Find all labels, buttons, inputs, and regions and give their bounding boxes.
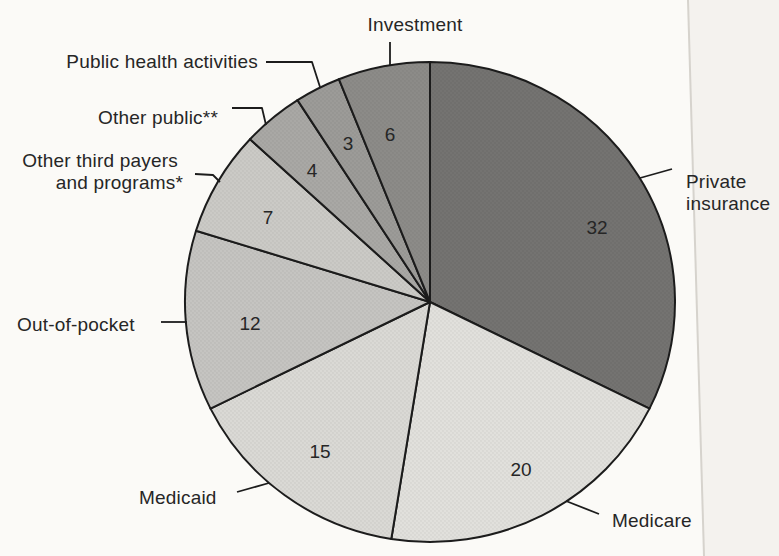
pie <box>185 62 675 542</box>
value-public-health-activities: 3 <box>343 133 354 154</box>
value-other-third-payers: 7 <box>263 207 274 228</box>
label-private-insurance-line2: insurance <box>686 193 770 214</box>
value-medicare: 20 <box>510 459 531 480</box>
leader-other-public <box>232 108 266 125</box>
pie-chart-figure: Investment Public health activities Othe… <box>0 0 779 556</box>
label-other-public: Other public** <box>98 107 218 128</box>
label-other-third-payers-line1: Other third payers <box>22 150 178 171</box>
leader-medicaid <box>237 483 269 492</box>
leader-other-third-payers <box>195 174 220 182</box>
label-investment: Investment <box>368 14 463 35</box>
label-other-third-payers-line2: and programs* <box>56 172 184 193</box>
leader-medicare <box>566 501 599 514</box>
label-private-insurance-line1: Private <box>686 171 747 192</box>
pie-chart-canvas: Investment Public health activities Othe… <box>0 0 779 556</box>
value-investment: 6 <box>385 124 396 145</box>
label-public-health-activities: Public health activities <box>66 51 258 72</box>
leader-public-health-activities <box>266 62 320 87</box>
label-medicare: Medicare <box>612 510 692 531</box>
value-other-public: 4 <box>307 160 318 181</box>
value-private-insurance: 32 <box>586 217 607 238</box>
value-out-of-pocket: 12 <box>239 313 260 334</box>
label-out-of-pocket: Out-of-pocket <box>17 314 135 335</box>
value-medicaid: 15 <box>309 441 330 462</box>
label-medicaid: Medicaid <box>139 487 217 508</box>
leader-private-insurance <box>640 169 672 178</box>
